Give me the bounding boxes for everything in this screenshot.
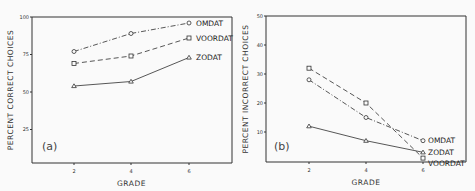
series-label: ZODAT (196, 53, 222, 62)
y-axis-label: PERCENT CORRECT CHOICES (6, 30, 15, 150)
triangle-marker-icon (364, 139, 369, 143)
panel-label: (b) (274, 140, 290, 153)
series-label: ZODAT (428, 148, 454, 157)
circle-marker-icon (421, 139, 425, 143)
square-marker-icon (187, 36, 191, 40)
triangle-marker-icon (129, 79, 134, 83)
triangle-marker-icon (307, 124, 312, 128)
y-tick-label: 20 (257, 100, 263, 106)
y-tick-label: 50 (23, 89, 29, 95)
series-omdat: OMDAT (307, 78, 456, 146)
x-axis-label: GRADE (117, 179, 146, 188)
y-tick-label: 25 (23, 126, 29, 132)
y-tick-label: 75 (23, 51, 29, 57)
y-axis-label: PERCENT INCORRECT CHOICES (241, 24, 250, 153)
circle-marker-icon (307, 78, 311, 82)
series-label: OMDAT (196, 19, 224, 28)
y-tick-label: 30 (257, 71, 263, 77)
x-tick-label: 4 (364, 167, 367, 173)
series-label: VOORDAT (196, 34, 233, 43)
y-tick-label: 100 (19, 14, 29, 20)
chart-panel-a: 255075100246GRADEPERCENT CORRECT CHOICES… (6, 14, 233, 188)
series-label: OMDAT (428, 136, 456, 145)
square-marker-icon (364, 101, 368, 105)
y-tick-label: 10 (257, 129, 263, 135)
series-zodat: ZODAT (72, 53, 223, 87)
x-tick-label: 6 (421, 167, 424, 173)
x-axis-label: GRADE (352, 178, 381, 187)
triangle-marker-icon (72, 84, 77, 88)
circle-marker-icon (72, 50, 76, 54)
circle-marker-icon (129, 32, 133, 36)
triangle-marker-icon (421, 150, 426, 154)
y-tick-label: 40 (257, 42, 263, 48)
square-marker-icon (307, 66, 311, 70)
square-marker-icon (72, 62, 76, 66)
x-tick-label: 4 (129, 168, 132, 174)
square-marker-icon (421, 156, 425, 160)
square-marker-icon (129, 54, 133, 58)
x-tick-label: 2 (307, 167, 310, 173)
panel-label: (a) (42, 140, 57, 153)
x-tick-label: 2 (72, 168, 75, 174)
figure: 255075100246GRADEPERCENT CORRECT CHOICES… (0, 0, 475, 191)
y-tick-label: 50 (257, 13, 263, 19)
chart-panel-b: 1020304050246GRADEPERCENT INCORRECT CHOI… (241, 13, 466, 187)
circle-marker-icon (364, 116, 368, 120)
x-tick-label: 6 (187, 168, 190, 174)
circle-marker-icon (187, 21, 191, 25)
series-label: VOORDAT (428, 159, 465, 168)
triangle-marker-icon (187, 55, 192, 59)
